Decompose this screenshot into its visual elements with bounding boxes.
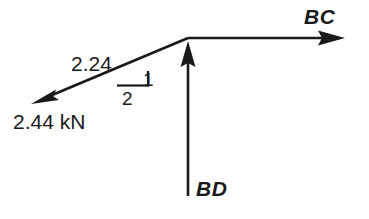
force-component-label: 2.24 [71, 53, 112, 74]
slope-rise-label: 1 [143, 70, 154, 89]
force-magnitude-label: 2.44 kN [13, 111, 85, 132]
vector-ba-shaft [45, 38, 188, 98]
vector-bd [181, 41, 196, 196]
vector-bc [188, 31, 345, 46]
force-diagram-figure: BC BD 2.24 2.44 kN 1 2 [0, 0, 369, 219]
vector-bd-label: BD [196, 178, 227, 199]
vector-bc-label: BC [304, 6, 335, 27]
vector-bc-arrowhead [318, 31, 345, 46]
vector-ba-arrowhead [31, 90, 59, 105]
slope-run-label: 2 [122, 89, 133, 108]
